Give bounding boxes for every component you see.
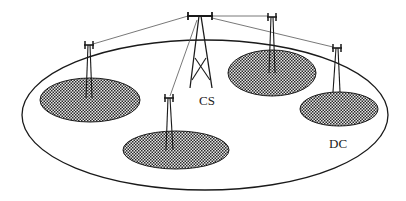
data-cell-label: DC	[329, 137, 347, 150]
cell-top-right	[228, 50, 316, 96]
cell-bottom	[123, 131, 229, 169]
cell-left	[40, 78, 140, 122]
central-station-label: CS	[199, 94, 215, 107]
link-cs-right	[212, 18, 333, 47]
network-diagram: CS DC	[0, 0, 406, 201]
central-station-tower-icon	[187, 12, 213, 88]
link-cs-bottom	[170, 20, 197, 96]
link-cs-left	[93, 16, 188, 44]
antenna-icon-right	[332, 44, 342, 92]
cell-right-dc	[300, 92, 378, 126]
